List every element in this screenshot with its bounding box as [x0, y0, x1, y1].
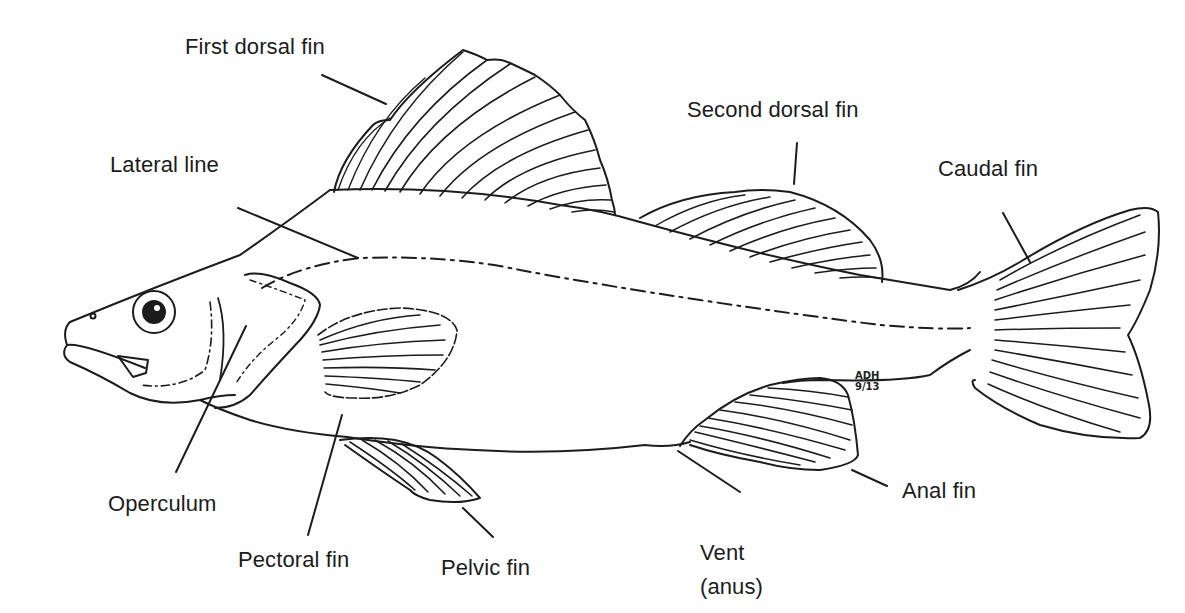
anal-fin [680, 378, 858, 470]
label-vent: Vent (anus) [700, 536, 763, 604]
fish-diagram [0, 0, 1185, 613]
label-pelvic-fin: Pelvic fin [441, 555, 530, 581]
label-vent-line1: Vent [700, 536, 763, 570]
first-dorsal-fin [334, 50, 615, 215]
pelvic-fin [340, 438, 480, 502]
artist-signature: ADH 9/13 [855, 370, 880, 392]
label-lateral-line: Lateral line [110, 152, 219, 178]
leader-pelvic-fin [463, 508, 493, 537]
second-dorsal-fin [640, 190, 883, 282]
label-first-dorsal-fin: First dorsal fin [185, 34, 325, 60]
signature-initials: ADH [855, 370, 880, 381]
label-pectoral-fin: Pectoral fin [238, 547, 349, 573]
caudal-fin [958, 208, 1159, 438]
label-caudal-fin: Caudal fin [938, 156, 1038, 182]
leader-second-dorsal-fin [794, 143, 797, 184]
label-anal-fin: Anal fin [902, 478, 976, 504]
leader-first-dorsal-fin [322, 75, 386, 104]
leader-caudal-fin [1003, 213, 1030, 262]
label-operculum: Operculum [108, 491, 217, 517]
signature-date: 9/13 [855, 381, 880, 392]
label-second-dorsal-fin: Second dorsal fin [687, 97, 859, 123]
fish-head [64, 274, 320, 408]
label-vent-line2: (anus) [700, 570, 763, 604]
pectoral-fin [318, 308, 457, 398]
leader-operculum [176, 326, 246, 472]
leader-anal-fin [852, 470, 887, 486]
leader-lateral-line [238, 208, 358, 258]
